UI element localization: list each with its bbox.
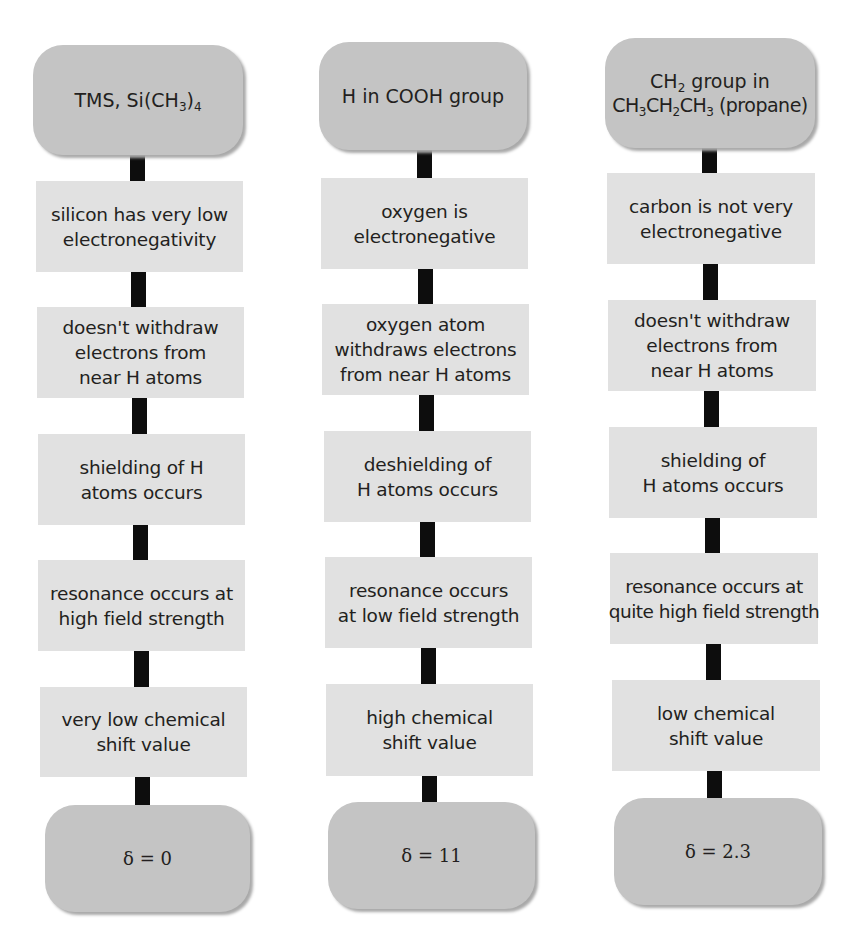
step-box: very low chemicalshift value [40, 687, 247, 777]
step-box: doesn't withdrawelectrons fromnear H ato… [608, 300, 816, 391]
connector [422, 776, 437, 804]
connector [419, 394, 434, 434]
start-node-propane: CH2 group in CH3CH2CH3 (propane) [605, 38, 815, 148]
step-box: shielding of Hatoms occurs [38, 434, 245, 525]
connector [133, 524, 148, 562]
connector [706, 642, 721, 682]
connector [703, 262, 718, 302]
start-node-cooh: H in COOH group [319, 42, 527, 150]
node-label: CH2 group in CH3CH2CH3 (propane) [612, 69, 808, 117]
connector [417, 148, 432, 180]
connector [705, 517, 720, 555]
connector [421, 648, 436, 686]
step-box: deshielding ofH atoms occurs [324, 431, 531, 522]
connector [420, 522, 435, 560]
step-box: silicon has very lowelectronegativity [36, 181, 243, 272]
node-label: H in COOH group [342, 84, 504, 108]
connector [707, 770, 722, 800]
result-node-propane: δ = 2.3 [614, 798, 822, 905]
connector [704, 389, 719, 429]
step-box: resonance occurs atquite high field stre… [610, 553, 818, 644]
node-label: TMS, Si(CH3)4 [74, 88, 201, 112]
result-node-tms: δ = 0 [45, 805, 250, 912]
step-box: carbon is not veryelectronegative [607, 173, 815, 264]
chemical-shift-value: δ = 11 [401, 844, 461, 868]
step-box: low chemicalshift value [612, 680, 820, 771]
chemical-shift-value: δ = 2.3 [685, 840, 751, 864]
step-box: shielding ofH atoms occurs [609, 427, 817, 518]
start-node-tms: TMS, Si(CH3)4 [33, 45, 243, 155]
connector [135, 776, 150, 808]
step-box: high chemicalshift value [326, 684, 533, 776]
step-box: oxygen iselectronegative [321, 178, 528, 269]
connector [418, 266, 433, 306]
connector [702, 146, 717, 176]
chemical-shift-value: δ = 0 [123, 847, 172, 871]
step-box: oxygen atomwithdraws electronsfrom near … [322, 304, 529, 395]
step-box: resonance occurs athigh field strength [38, 560, 245, 651]
connector [130, 152, 145, 184]
step-box: resonance occursat low field strength [325, 557, 532, 648]
connector [131, 270, 146, 308]
step-box: doesn't withdrawelectrons fromnear H ato… [37, 307, 244, 398]
result-node-cooh: δ = 11 [328, 802, 535, 909]
connector [132, 396, 147, 436]
connector [134, 650, 149, 690]
